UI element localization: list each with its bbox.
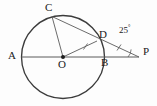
point-label-B: B: [101, 57, 108, 68]
degree-symbol: °: [128, 24, 130, 30]
point-label-O: O: [58, 59, 66, 70]
point-label-A: A: [8, 50, 16, 61]
line-segment-C-to-O: [52, 17, 63, 58]
point-label-P: P: [143, 46, 149, 57]
line-segment-C-to-P: [52, 17, 139, 58]
circle-geometry-figure: [0, 0, 157, 106]
line-segment-O-to-D: [63, 41, 97, 57]
angle-arc-at-P: [128, 49, 131, 57]
point-label-C: C: [45, 2, 52, 13]
tick-mark-on-OD: [84, 44, 88, 50]
angle-value-text: 25: [119, 25, 128, 35]
geometry-diagram-canvas: A O B C D P 25°: [0, 0, 157, 106]
angle-label-25-degrees: 25°: [119, 24, 130, 35]
point-label-D: D: [99, 29, 107, 40]
